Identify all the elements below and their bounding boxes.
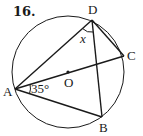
angle-label-A: 35° — [31, 82, 49, 95]
point-label-D: D — [88, 3, 97, 16]
center-label-O: O — [64, 76, 73, 89]
problem-number: 16. — [13, 4, 36, 19]
segment-DB — [92, 20, 102, 117]
circle-diagram — [0, 0, 143, 136]
point-label-B: B — [99, 121, 108, 134]
center-point — [66, 70, 69, 73]
geometry-figure: 16. D C A B O 35° x — [0, 0, 143, 136]
angle-label-D: x — [80, 32, 86, 45]
point-label-A: A — [3, 85, 12, 98]
segment-DC — [92, 20, 124, 56]
segment-AB — [15, 89, 102, 117]
point-label-C: C — [127, 49, 136, 62]
